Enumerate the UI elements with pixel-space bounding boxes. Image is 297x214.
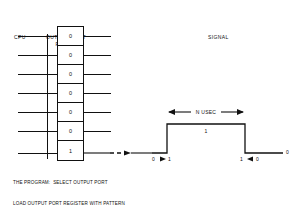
signal-duration-label: N USEC	[196, 109, 216, 116]
falling-edge-from-label: 1	[240, 156, 243, 163]
rising-edge-arrow-icon	[160, 157, 166, 162]
rising-edge-from-label: 0	[152, 156, 155, 163]
duration-arrow-left-icon	[168, 109, 175, 115]
connector-arrow-icon	[124, 151, 131, 156]
falling-edge-to-label: 0	[256, 156, 259, 163]
figure-canvas: CPU OUTPUT PORT REGISTER SIGNAL 0 0 0 0 …	[0, 0, 297, 214]
duration-arrow-right-icon	[237, 109, 244, 115]
signal-end-level-label: 0	[286, 149, 289, 156]
signal-waveform	[152, 124, 283, 153]
program-line: THE PROGRAM: SELECT OUTPUT PORT	[13, 179, 125, 186]
signal-high-level-label: 1	[204, 128, 207, 135]
program-line: LOAD OUTPUT PORT REGISTER WITH PATTERN	[13, 200, 125, 207]
rising-edge-to-label: 1	[168, 156, 171, 163]
program-listing: THE PROGRAM: SELECT OUTPUT PORT LOAD OUT…	[13, 164, 125, 214]
falling-edge-arrow-icon	[247, 157, 253, 162]
